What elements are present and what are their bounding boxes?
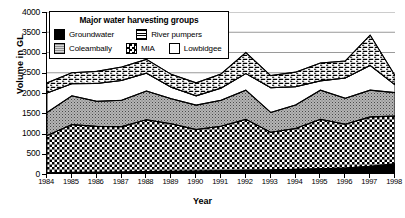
legend-label-mia: MIA bbox=[141, 44, 155, 53]
legend-item-groundwater: Groundwater bbox=[54, 29, 114, 40]
legend-swatch-coleambally bbox=[54, 43, 65, 54]
y-tick-label: 2000 bbox=[2, 89, 40, 98]
y-tick-label: 1500 bbox=[2, 109, 40, 118]
y-tick-label: 3500 bbox=[2, 28, 40, 37]
x-tick-label: 1998 bbox=[379, 178, 405, 186]
y-tick-label: 4000 bbox=[2, 8, 40, 17]
legend-label-lowbidgee: Lowbidgee bbox=[184, 44, 222, 53]
legend-item-river-pumpers: River pumpers bbox=[136, 29, 202, 40]
legend-item-coleambally: Coleambally bbox=[54, 43, 112, 54]
legend-item-mia: MIA bbox=[126, 43, 155, 54]
chart-figure: Volume in GL 400035003000250020001500100… bbox=[0, 0, 405, 218]
y-tick-label: 2500 bbox=[2, 68, 40, 77]
legend-swatch-river-pumpers bbox=[136, 29, 147, 40]
y-tick-label: 0 bbox=[2, 170, 40, 179]
legend-row-1: Groundwater River pumpers bbox=[54, 27, 224, 41]
legend-title: Major water harvesting groups bbox=[54, 15, 224, 25]
y-tick-label: 500 bbox=[2, 149, 40, 158]
legend-label-coleambally: Coleambally bbox=[69, 44, 112, 53]
legend-swatch-groundwater bbox=[54, 29, 65, 40]
y-tick-label: 3000 bbox=[2, 48, 40, 57]
legend-swatch-mia bbox=[126, 43, 137, 54]
legend-label-groundwater: Groundwater bbox=[69, 30, 114, 39]
legend-swatch-lowbidgee bbox=[169, 43, 180, 54]
x-axis-title: Year bbox=[0, 196, 405, 206]
legend-label-river-pumpers: River pumpers bbox=[151, 30, 202, 39]
y-tick-label: 1000 bbox=[2, 129, 40, 138]
legend-item-lowbidgee: Lowbidgee bbox=[169, 43, 222, 54]
legend-row-2: Coleambally MIA Lowbidgee bbox=[54, 41, 224, 55]
chart-legend: Major water harvesting groups Groundwate… bbox=[49, 11, 229, 59]
